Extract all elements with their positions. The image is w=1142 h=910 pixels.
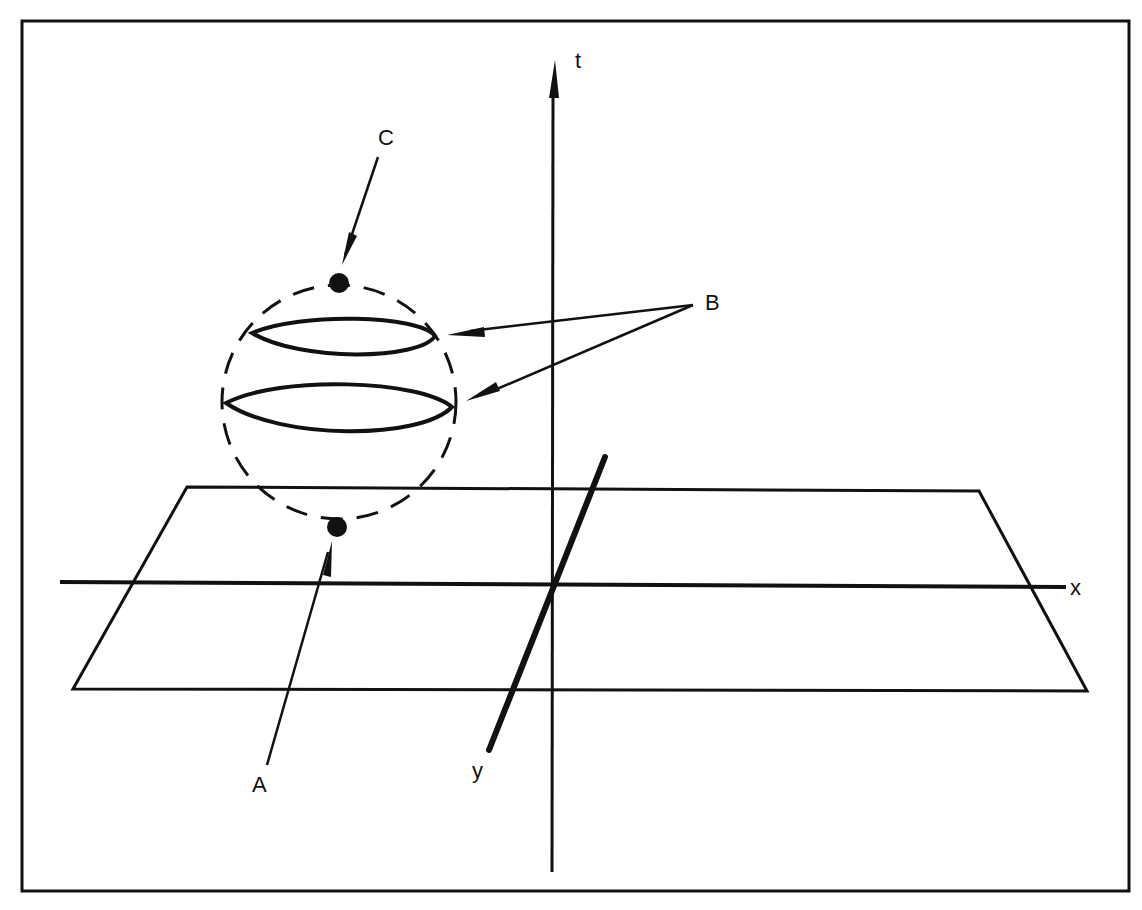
x-axis-label: x <box>1070 575 1081 600</box>
slice-loop-lower <box>226 384 452 431</box>
point-bottom <box>327 517 347 537</box>
arrowhead-a <box>323 541 332 577</box>
y-axis-label: y <box>472 758 483 783</box>
y-axis <box>489 457 605 750</box>
t-axis-label: t <box>575 48 581 73</box>
point-top <box>329 273 349 293</box>
arrowhead-c <box>342 232 357 265</box>
arrowhead-b-upper <box>447 327 485 337</box>
diagram-frame <box>22 21 1129 891</box>
x-axis <box>60 582 1066 587</box>
label-a: A <box>252 772 267 797</box>
arrowhead-b-lower <box>466 382 500 401</box>
spacetime-diagram: x t y C B A <box>0 0 1142 910</box>
slice-loop-upper <box>252 319 435 355</box>
label-b: B <box>705 290 720 315</box>
label-c: C <box>378 125 394 150</box>
t-axis <box>552 95 553 872</box>
t-axis-arrowhead <box>549 60 559 98</box>
